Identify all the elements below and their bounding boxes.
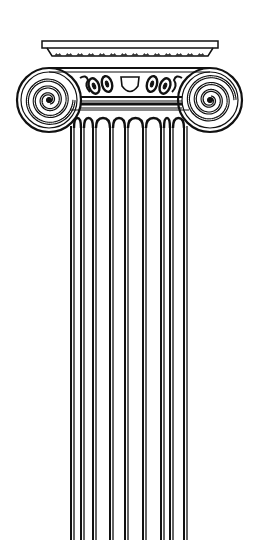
echinus-egg-and-dart [80,75,182,95]
shaft-flutes [70,110,189,540]
ionic-column-drawing [0,0,262,540]
column-svg [0,0,262,540]
volute-right [178,68,242,132]
volute-left [17,68,81,132]
